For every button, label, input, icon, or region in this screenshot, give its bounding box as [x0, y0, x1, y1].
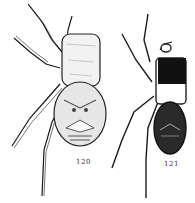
spiders-drawing	[0, 0, 195, 203]
figure-label-121: 121	[164, 160, 179, 168]
spider-121	[112, 14, 186, 198]
spider-120	[12, 4, 106, 196]
illustration-plate: 120 121	[0, 0, 195, 203]
figure-label-120: 120	[76, 158, 91, 166]
